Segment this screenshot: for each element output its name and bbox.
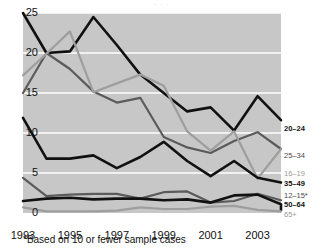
- gridlines-group: [23, 13, 281, 213]
- x-tick-label: 2003: [238, 230, 278, 241]
- x-tick-label: 2001: [191, 230, 231, 241]
- series-label-16-19: 16–19: [284, 170, 305, 178]
- y-tick-label: 20: [0, 47, 38, 58]
- y-tick-label: 10: [0, 127, 38, 138]
- series-label-25-34: 25–34: [284, 152, 305, 160]
- chart-plot-region: 0510152025 199319951997199920012003 20–2…: [0, 8, 324, 221]
- chart-figure: · · · 0510152025 19931995199719992001200…: [0, 0, 324, 249]
- series-line-65+: [23, 206, 281, 212]
- series-label-35-49: 35–49: [284, 180, 305, 188]
- series-label-20-24: 20–24: [284, 125, 305, 133]
- chart-footnote: *Based on 10 or fewer sample cases: [23, 234, 186, 245]
- series-label-12-15: 12–15*: [284, 192, 308, 200]
- y-tick-label: 25: [0, 7, 38, 18]
- y-tick-label: 0: [0, 207, 38, 218]
- series-line-20-24: [23, 13, 281, 131]
- series-lines-group: [23, 13, 281, 211]
- y-tick-label: 5: [0, 167, 38, 178]
- series-line-25-34: [23, 53, 281, 153]
- line-chart-svg: [0, 8, 324, 221]
- series-label-50-64: 50–64: [284, 201, 305, 209]
- y-tick-label: 15: [0, 87, 38, 98]
- series-label-65+: 65+: [284, 211, 297, 219]
